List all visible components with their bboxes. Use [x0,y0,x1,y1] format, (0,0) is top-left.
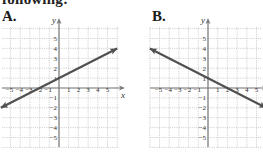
x-tick-label: −2 [184,86,192,94]
y-tick-label: 3 [203,55,207,63]
x-tick-label: 1 [216,86,220,94]
y-tick-label: −2 [199,104,207,112]
x-tick-label: −3 [174,86,182,94]
y-axis-label: y [200,15,205,25]
y-tick-label: 4 [203,45,207,53]
x-tick-label: 5 [106,86,110,94]
y-tick-label: −1 [50,94,58,102]
y-tick-label: 3 [54,55,58,63]
x-tick-label: 2 [77,86,81,94]
chart-a: xy−5−4−3−2−11234554321−1−2−3−4−5 [0,0,131,157]
chart-b: xy−5−4−3−2−11234554321−1−2−3−4−5 [131,0,263,157]
x-tick-label: 1 [67,86,71,94]
x-tick-label: −4 [164,86,172,94]
y-tick-label: −4 [199,124,207,132]
x-tick-label: 4 [96,86,100,94]
x-tick-label: −4 [15,86,23,94]
x-tick-label: −1 [194,86,202,94]
y-tick-label: −5 [199,134,207,142]
y-tick-label: 4 [54,45,58,53]
x-tick-label: −5 [155,86,163,94]
x-axis-label: x [120,90,125,100]
x-tick-label: −5 [6,86,14,94]
y-tick-label: 2 [54,65,58,73]
x-tick-label: 3 [86,86,90,94]
y-tick-label: −1 [199,94,207,102]
y-tick-label: −3 [50,114,58,122]
x-tick-label: −1 [45,86,53,94]
y-tick-label: −3 [199,114,207,122]
y-tick-label: 2 [203,65,207,73]
y-tick-label: −4 [50,124,58,132]
plotted-line [150,48,263,107]
y-axis-label: y [51,15,56,25]
x-tick-label: 4 [245,86,249,94]
y-tick-label: −2 [50,104,58,112]
x-tick-label: 5 [255,86,259,94]
y-tick-label: 5 [203,35,207,43]
y-tick-label: 5 [54,35,58,43]
y-tick-label: −5 [50,134,58,142]
